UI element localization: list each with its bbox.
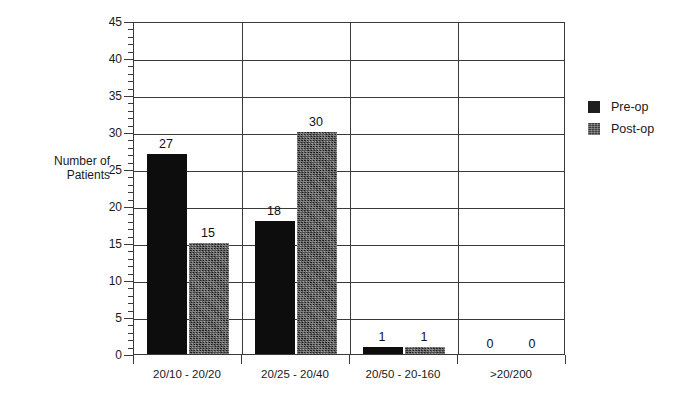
y-axis-tick-label: 10	[96, 275, 122, 287]
bar-value-label: 15	[188, 227, 228, 240]
bar-pre-op	[363, 347, 403, 354]
y-axis-tick-label: 20	[96, 201, 122, 213]
y-axis-tick-major	[124, 133, 133, 134]
x-axis-category-label: 20/25 - 20/40	[241, 368, 349, 381]
x-axis-tick	[241, 355, 242, 364]
x-axis-tick	[457, 355, 458, 364]
y-axis-tick-major	[124, 96, 133, 97]
plot-area	[133, 22, 565, 355]
y-axis-tick-label: 15	[96, 238, 122, 250]
gridline-horizontal	[134, 60, 564, 61]
y-axis-tick-major	[124, 170, 133, 171]
bar-value-label: 30	[296, 116, 336, 129]
y-axis-tick-major	[124, 355, 133, 356]
x-axis-category-label: 20/50 - 20-160	[349, 368, 457, 381]
y-axis-tick-major	[124, 244, 133, 245]
legend-label-pre-op: Pre-op	[611, 101, 649, 114]
gridline-horizontal	[134, 171, 564, 172]
bar-value-label: 0	[470, 338, 510, 351]
x-axis-category-label: 20/10 - 20/20	[133, 368, 241, 381]
bar-post-op	[297, 132, 337, 354]
x-axis-category-label: >20/200	[457, 368, 565, 381]
legend: Pre-op Post-op	[588, 96, 672, 140]
category-separator	[350, 23, 351, 354]
bar-chart: Number of Patients 051015202530354045 20…	[0, 0, 681, 401]
bar-value-label: 1	[362, 331, 402, 344]
bar-value-label: 1	[404, 331, 444, 344]
bar-post-op	[189, 243, 229, 354]
y-axis	[124, 22, 133, 355]
legend-label-post-op: Post-op	[611, 123, 654, 136]
y-axis-tick-major	[124, 207, 133, 208]
gridline-horizontal	[134, 97, 564, 98]
bar-value-label: 18	[254, 205, 294, 218]
x-axis-tick	[565, 355, 566, 364]
y-axis-tick-label: 0	[96, 349, 122, 361]
legend-item-pre-op: Pre-op	[588, 96, 672, 118]
bar-post-op	[405, 347, 445, 354]
y-axis-tick-label: 30	[96, 127, 122, 139]
y-axis-tick-label: 45	[96, 16, 122, 28]
x-axis-tick	[349, 355, 350, 364]
y-axis-tick-major	[124, 281, 133, 282]
bar-value-label: 27	[146, 138, 186, 151]
y-axis-tick-label: 5	[96, 312, 122, 324]
gridline-horizontal	[134, 134, 564, 135]
y-axis-tick-major	[124, 22, 133, 23]
y-axis-tick-label: 35	[96, 90, 122, 102]
legend-item-post-op: Post-op	[588, 118, 672, 140]
y-axis-tick-label: 25	[96, 164, 122, 176]
y-axis-tick-major	[124, 59, 133, 60]
y-axis-tick-label: 40	[96, 53, 122, 65]
post-op-swatch-icon	[588, 123, 600, 135]
pre-op-swatch-icon	[588, 101, 600, 113]
bar-pre-op	[255, 221, 295, 354]
category-separator	[242, 23, 243, 354]
x-axis-tick	[133, 355, 134, 364]
bar-pre-op	[147, 154, 187, 354]
y-axis-tick-major	[124, 318, 133, 319]
category-separator	[458, 23, 459, 354]
gridline-horizontal	[134, 208, 564, 209]
bar-value-label: 0	[512, 338, 552, 351]
